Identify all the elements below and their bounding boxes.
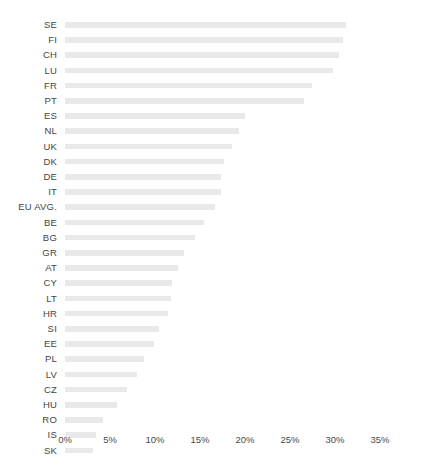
bar-row: FR (0, 78, 422, 93)
category-label: UK (0, 139, 57, 154)
category-label: SI (0, 321, 57, 336)
bar (65, 113, 245, 119)
bar-row: HR (0, 306, 422, 321)
bar (65, 372, 137, 378)
category-label: FR (0, 78, 57, 93)
bar-row: CH (0, 47, 422, 62)
bar-row: DK (0, 154, 422, 169)
bar-track (65, 93, 422, 108)
bar-track (65, 139, 422, 154)
bar-track (65, 230, 422, 245)
bar-row: NL (0, 123, 422, 138)
bar-track (65, 412, 422, 427)
bar-row: SE (0, 17, 422, 32)
x-axis-tick-label: 20% (235, 434, 254, 445)
bar-row: IT (0, 184, 422, 199)
bar-track (65, 47, 422, 62)
category-label: SE (0, 17, 57, 32)
category-label: DE (0, 169, 57, 184)
category-label: RO (0, 412, 57, 427)
bar (65, 296, 171, 302)
category-label: HU (0, 397, 57, 412)
bar-row: RO (0, 412, 422, 427)
category-label: CY (0, 275, 57, 290)
bar (65, 387, 127, 393)
category-label: LU (0, 63, 57, 78)
bar (65, 144, 232, 150)
bar (65, 341, 154, 347)
bar-track (65, 260, 422, 275)
bar (65, 159, 224, 165)
bar (65, 22, 346, 28)
bar-row: SI (0, 321, 422, 336)
bar (65, 174, 221, 180)
bar-row: ES (0, 108, 422, 123)
category-label: ES (0, 108, 57, 123)
bar-track (65, 17, 422, 32)
bar-row: UK (0, 139, 422, 154)
bar (65, 189, 221, 195)
bar-track (65, 199, 422, 214)
category-label: GR (0, 245, 57, 260)
category-label: CH (0, 47, 57, 62)
bar (65, 265, 178, 271)
bar (65, 311, 168, 317)
bar-row: GR (0, 245, 422, 260)
bar-track (65, 306, 422, 321)
x-axis-tick-label: 0% (58, 434, 72, 445)
bar (65, 52, 339, 58)
bar-row: EE (0, 336, 422, 351)
bar (65, 250, 184, 256)
category-label: NL (0, 123, 57, 138)
bar-track (65, 382, 422, 397)
x-axis-tick-label: 35% (370, 434, 389, 445)
x-axis-tick-label: 30% (325, 434, 344, 445)
category-label: DK (0, 154, 57, 169)
category-label: HR (0, 306, 57, 321)
category-label: FI (0, 32, 57, 47)
bar-track (65, 169, 422, 184)
bar-row: HU (0, 397, 422, 412)
bar-track (65, 154, 422, 169)
bar (65, 128, 239, 134)
bar-track (65, 63, 422, 78)
bar (65, 68, 333, 74)
category-label: EU AVG. (0, 199, 57, 214)
bar-row: BE (0, 215, 422, 230)
category-label: LT (0, 291, 57, 306)
bar-track (65, 32, 422, 47)
category-label: LV (0, 367, 57, 382)
bar-track (65, 78, 422, 93)
category-label: CZ (0, 382, 57, 397)
bar-row: DE (0, 169, 422, 184)
category-label: PL (0, 351, 57, 366)
bar (65, 356, 144, 362)
bar (65, 220, 204, 226)
bar-row: LT (0, 291, 422, 306)
bar (65, 402, 117, 408)
category-label: BE (0, 215, 57, 230)
category-label: AT (0, 260, 57, 275)
bar-row: EU AVG. (0, 199, 422, 214)
bar-track (65, 245, 422, 260)
bar (65, 204, 215, 210)
bar-row: LU (0, 63, 422, 78)
bar (65, 98, 304, 104)
bar-track (65, 336, 422, 351)
category-label: IT (0, 184, 57, 199)
bar-track (65, 351, 422, 366)
bar (65, 326, 159, 332)
bar-row: PL (0, 351, 422, 366)
x-axis-tick-label: 5% (103, 434, 117, 445)
bar-track (65, 215, 422, 230)
bar (65, 83, 312, 89)
bar-row: BG (0, 230, 422, 245)
bar-track (65, 108, 422, 123)
bar-row: FI (0, 32, 422, 47)
category-label: EE (0, 336, 57, 351)
bar-chart: SEFICHLUFRPTESNLUKDKDEITEU AVG.BEBGGRATC… (0, 0, 422, 471)
bar-track (65, 397, 422, 412)
x-axis-tick-label: 15% (190, 434, 209, 445)
bar (65, 280, 172, 286)
bar-track (65, 123, 422, 138)
